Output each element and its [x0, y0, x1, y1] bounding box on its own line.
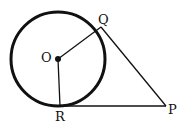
- center-point: [55, 56, 61, 62]
- label-p: P: [168, 102, 177, 117]
- circle-tangent-diagram: O Q R P: [0, 0, 183, 124]
- label-q: Q: [98, 12, 109, 27]
- tangent-qp: [101, 27, 166, 106]
- radius-or: [58, 59, 60, 106]
- label-o: O: [41, 50, 52, 65]
- radius-oq: [58, 27, 101, 59]
- label-r: R: [55, 109, 66, 124]
